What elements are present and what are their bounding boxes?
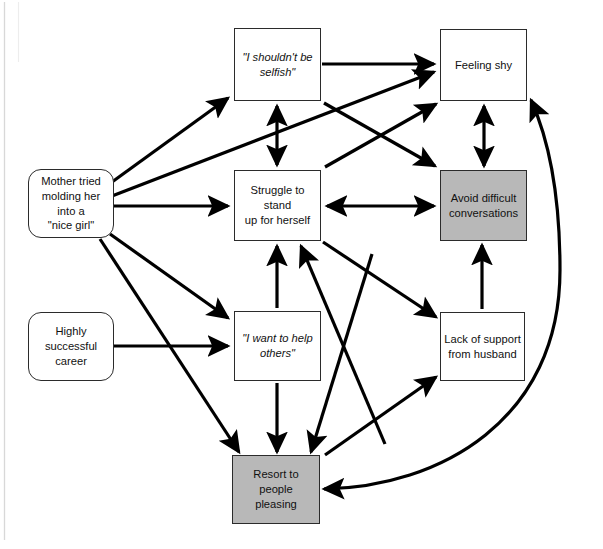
diagram-canvas: Mother tried molding her into a "nice gi…: [0, 0, 603, 549]
node-label: "I shouldn't be selfish": [242, 50, 312, 80]
node-label: Avoid difficult conversations: [449, 191, 518, 221]
node-label: "I want to help others": [242, 331, 313, 361]
node-highly-successful-career[interactable]: Highly successful career: [28, 312, 114, 381]
node-label: Mother tried molding her into a "nice gi…: [32, 174, 110, 233]
edge-mother-to-help: [110, 234, 228, 318]
node-i-want-to-help-others[interactable]: "I want to help others": [234, 311, 321, 381]
node-feeling-shy[interactable]: Feeling shy: [440, 29, 527, 101]
node-label: Highly successful career: [32, 324, 110, 368]
edge-struggle-to-husband: [323, 242, 436, 317]
edge-mother-to-selfish: [112, 98, 228, 182]
node-label: Resort to people pleasing: [236, 467, 316, 511]
node-label: Struggle to stand up for herself: [238, 183, 317, 227]
node-i-shouldnt-be-selfish[interactable]: "I shouldn't be selfish": [234, 28, 321, 101]
node-struggle-to-stand-up[interactable]: Struggle to stand up for herself: [234, 170, 321, 241]
node-lack-of-support-from-husband[interactable]: Lack of support from husband: [440, 312, 525, 381]
node-label: Feeling shy: [455, 58, 512, 73]
node-label: Lack of support from husband: [444, 332, 521, 362]
edge-pleasing-to-husband: [325, 377, 436, 455]
node-mother-tried-molding[interactable]: Mother tried molding her into a "nice gi…: [28, 169, 114, 238]
node-avoid-difficult-conversations[interactable]: Avoid difficult conversations: [440, 170, 527, 241]
node-resort-to-people-pleasing[interactable]: Resort to people pleasing: [232, 455, 320, 524]
